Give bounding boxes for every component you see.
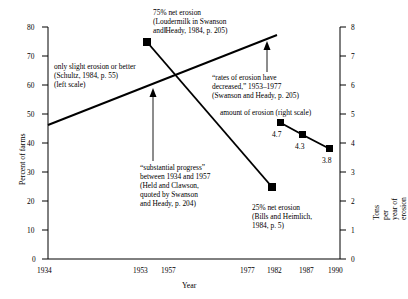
marker-erosion-3-8	[326, 145, 333, 152]
x-tick-label-1987: 1987	[299, 266, 314, 275]
x-tick-label-1953: 1953	[133, 266, 148, 275]
y-axis-title-left: Percent of farms	[18, 133, 27, 185]
annotation-line: 25% net erosion	[252, 203, 312, 212]
annotation-line: “substantial progress”	[140, 163, 210, 172]
annotation-line: (Loudermilk in Swanson	[153, 17, 227, 26]
right-tick-label-6: 6	[351, 81, 355, 90]
right-tick-label-1: 1	[351, 226, 355, 235]
annotation-75-net-erosion: 75% net erosion (Loudermilk in Swanson a…	[153, 8, 227, 35]
left-tick-label-30: 30	[27, 168, 34, 177]
annotation-line: 1984, p. 5)	[252, 221, 312, 230]
data-label-4-3: 4.3	[295, 142, 305, 151]
annotation-line: “rates of erosion have	[212, 73, 299, 82]
annotation-line: and Heady, p. 204)	[140, 199, 210, 208]
annotation-line: (Held and Clawson,	[140, 181, 210, 190]
marker-erosion-4-7	[277, 119, 284, 126]
right-tick-label-4: 4	[351, 139, 355, 148]
marker-erosion-4-3	[299, 131, 306, 138]
right-tick-label-8: 8	[351, 23, 355, 32]
left-tick-label-10: 10	[27, 226, 34, 235]
left-tick-label-50: 50	[27, 110, 34, 119]
right-tick-label-0: 0	[351, 255, 355, 264]
annotation-line: (Swanson and Heady, p. 205)	[212, 91, 299, 100]
left-axis-ticks	[42, 27, 48, 259]
left-tick-label-20: 20	[27, 197, 34, 206]
y-axis-title-right: Tons per year of erosion	[372, 197, 408, 220]
x-tick-label-1977: 1977	[240, 266, 255, 275]
annotation-slight-erosion: only slight erosion or better (Schultz, …	[54, 62, 136, 89]
annotation-amount-of-erosion: amount of erosion (right scale)	[220, 108, 311, 117]
annotation-rates-decreased: “rates of erosion have decreased,” 1953–…	[212, 73, 299, 100]
left-tick-label-40: 40	[27, 139, 34, 148]
left-tick-label-80: 80	[27, 23, 34, 32]
left-tick-label-70: 70	[27, 52, 34, 61]
annotation-line: decreased,” 1953–1977	[212, 82, 299, 91]
annotation-line: (Schultz, 1984, p. 55)	[54, 71, 136, 80]
marker-75-percent	[143, 38, 151, 46]
x-tick-label-1990: 1990	[328, 266, 343, 275]
right-axis-ticks	[340, 27, 346, 259]
annotation-line: quoted by Swanson	[140, 190, 210, 199]
annotation-line: amount of erosion (right scale)	[220, 108, 311, 117]
x-tick-label-1957: 1957	[161, 266, 176, 275]
x-tick-label-1982: 1982	[267, 266, 282, 275]
left-tick-label-60: 60	[27, 81, 34, 90]
right-tick-label-2: 2	[351, 197, 355, 206]
callout-arrow-substantial-progress	[150, 88, 157, 161]
annotation-line: (Bills and Heimlich,	[252, 212, 312, 221]
marker-25-percent	[268, 183, 276, 191]
callout-arrow-rates-decreased	[264, 41, 271, 72]
annotation-25-net-erosion: 25% net erosion (Bills and Heimlich, 198…	[252, 203, 312, 230]
annotation-line: between 1934 and 1957	[140, 172, 210, 181]
data-label-3-8: 3.8	[322, 156, 332, 165]
annotation-line: 75% net erosion	[153, 8, 227, 17]
right-tick-label-5: 5	[351, 110, 355, 119]
annotation-substantial-progress: “substantial progress” between 1934 and …	[140, 163, 210, 208]
annotation-line: (left scale)	[54, 80, 136, 89]
data-label-4-7: 4.7	[272, 130, 282, 139]
annotation-line: only slight erosion or better	[54, 62, 136, 71]
right-tick-label-3: 3	[351, 168, 355, 177]
annotation-line: and Heady, 1984, p. 205)	[153, 26, 227, 35]
x-tick-label-1934: 1934	[37, 266, 52, 275]
x-axis-title: Year	[182, 281, 196, 290]
right-tick-label-7: 7	[351, 52, 355, 61]
left-tick-label-0: 0	[32, 255, 36, 264]
